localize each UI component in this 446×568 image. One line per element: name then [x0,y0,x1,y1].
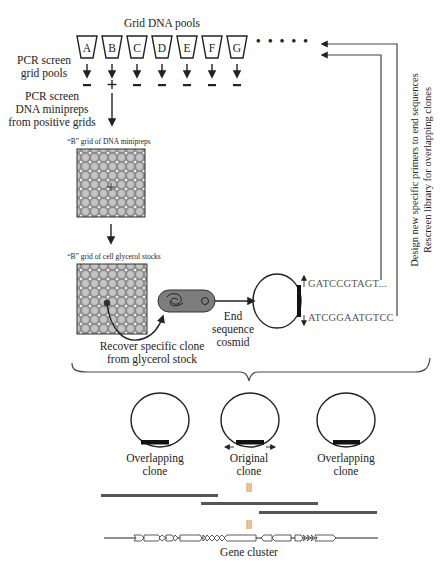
negative-result-icon [183,84,191,86]
clone-label-1: Original [230,452,268,465]
negative-result-icon [158,84,166,86]
end-sequence-bottom: ATCGGAATGTCC [308,312,394,323]
gene-cluster [104,535,378,541]
pool-c: C [127,36,147,58]
clone-label-2: clone [237,465,262,477]
more-pools-ellipsis: • • • • • [256,33,310,48]
recover-label-1: Recover specific clone [100,340,205,353]
end-seq-label-3: cosmid [216,336,249,348]
pool-a: A [77,36,97,58]
pool-arrows [87,64,237,77]
equivalence-symbol: ||| [246,518,252,529]
clone-label-2: clone [143,465,168,477]
pcr-results [83,80,241,89]
pool-row: A B C D E F G • • • • • [77,33,310,58]
positive-result-icon [108,80,117,89]
cosmid-screening-diagram: Grid DNA pools A B C D E F G [0,0,446,568]
pool-label: F [209,42,215,54]
clone-original: Original clone [221,393,279,477]
pcr-mini-label-1: PCR screen [25,90,79,102]
glycerol-grid-label: “B” grid of cell glycerol stocks [67,252,161,261]
gene-cluster-label: Gene cluster [220,546,278,558]
contig-map [101,494,377,514]
equivalence-symbol: ||| [246,481,252,492]
clone-label-2: clone [334,465,359,477]
negative-result-icon [133,84,141,86]
pool-label: E [183,42,190,54]
pool-label: D [158,42,166,54]
pool-d: D [152,36,172,58]
bacterial-cell-icon [158,290,215,312]
pool-e: E [177,36,197,58]
negative-result-icon [233,84,241,86]
recover-label-2: from glycerol stock [107,353,197,366]
cosmid-plasmid [253,274,301,328]
end-seq-label-1: End [224,310,243,322]
feedback-label-2: Rescreen library for overlapping clones [422,87,433,253]
pcr-mini-label-3: from positive grids [8,116,96,129]
pcr-grid-label-2: grid pools [21,67,68,80]
pool-label: G [233,42,241,54]
pcr-grid-label-1: PCR screen [17,54,71,66]
feedback-loop [322,44,397,316]
clone-overlapping-left: Overlapping clone [126,393,189,477]
pool-b: B [102,36,122,58]
pool-f: F [202,36,222,58]
contig-bar [259,511,377,514]
clone-overlapping-right: Overlapping clone [317,393,375,477]
negative-result-icon [208,84,216,86]
pcr-mini-label-2: DNA minipreps [15,103,89,116]
feedback-label-1: Design new specific primers to end seque… [409,73,420,267]
feedback-label: Design new specific primers to end seque… [409,73,433,267]
pool-label: C [133,42,141,54]
end-seq-label-2: sequence [212,323,254,336]
negative-result-icon [83,84,91,86]
contig-bar [201,502,318,505]
pools-title: Grid DNA pools [124,17,201,30]
pool-label: A [83,42,92,54]
minipreps-grid [77,149,145,217]
clone-label-1: Overlapping [126,452,184,465]
pool-label: B [108,42,116,54]
contig-bar [101,494,218,497]
end-sequence-top: GATCCGTAGT... [308,278,387,289]
pool-g: G [227,36,247,58]
minipreps-grid-label: “B” grid of DNA minipreps [67,137,150,146]
clone-label-1: Overlapping [317,452,375,465]
